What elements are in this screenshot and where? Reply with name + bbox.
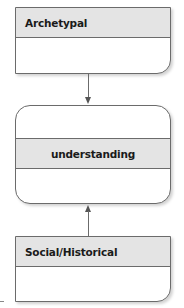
archetypal-node: Archetypal xyxy=(15,7,171,74)
arrow-social-to-understanding xyxy=(88,211,89,236)
social-historical-node-label: Social/Historical xyxy=(16,237,170,267)
social-historical-node: Social/Historical xyxy=(15,236,171,302)
arrow-archetypal-to-understanding xyxy=(88,74,89,98)
archetypal-node-label: Archetypal xyxy=(16,8,170,38)
arrow-head-down-icon xyxy=(85,97,91,104)
understanding-node: understanding xyxy=(15,105,171,204)
edge-mark xyxy=(0,301,4,302)
understanding-node-label: understanding xyxy=(16,138,170,169)
